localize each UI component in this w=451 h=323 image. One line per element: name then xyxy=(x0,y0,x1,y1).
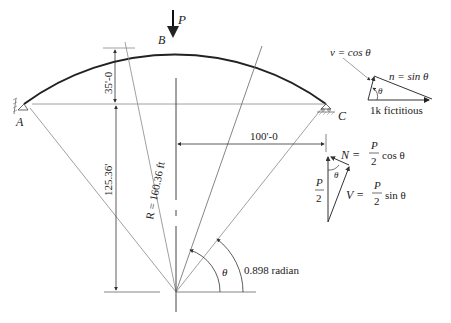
fictitious-label: 1k fictitious xyxy=(370,104,423,116)
arch-diagram: P B A C 35'-0 125.36' R = 160.36 ft 100'… xyxy=(0,0,451,323)
V-trig: sin θ xyxy=(385,189,406,201)
unit-theta-label: θ xyxy=(378,86,383,96)
V-label: V = xyxy=(346,188,364,202)
v-label: v = cos θ xyxy=(330,46,371,58)
theta-arc xyxy=(190,250,220,292)
radial-line-radius xyxy=(125,42,176,292)
left-support-label: A xyxy=(15,115,24,129)
P2-num: P xyxy=(315,176,323,188)
V-frac-num: P xyxy=(373,179,381,191)
center-depth-label: 125.36' xyxy=(102,164,114,196)
load-theta-label: θ xyxy=(334,170,339,180)
N-frac-den: 2 xyxy=(371,155,377,167)
V-frac-den: 2 xyxy=(374,195,380,207)
rise-label: 35'-0 xyxy=(102,71,114,94)
right-support xyxy=(317,104,335,115)
n-label: n = sin θ xyxy=(389,70,429,82)
half-angle-arc xyxy=(217,239,243,292)
crown-label: B xyxy=(158,33,166,47)
radius-label: R = 160.36 ft xyxy=(143,160,166,220)
arch-curve xyxy=(24,54,326,104)
P2-den: 2 xyxy=(316,192,322,204)
radial-line-theta xyxy=(176,46,262,292)
half-span-label: 100'-0 xyxy=(250,130,278,142)
right-support-label: C xyxy=(338,109,347,123)
half-angle-label: 0.898 radian xyxy=(244,264,299,276)
left-support xyxy=(13,98,28,114)
load-label: P xyxy=(177,12,186,27)
theta-label: θ xyxy=(222,266,228,278)
N-frac-num: P xyxy=(370,139,378,151)
N-label: N = xyxy=(340,148,360,162)
N-trig: cos θ xyxy=(382,149,405,161)
